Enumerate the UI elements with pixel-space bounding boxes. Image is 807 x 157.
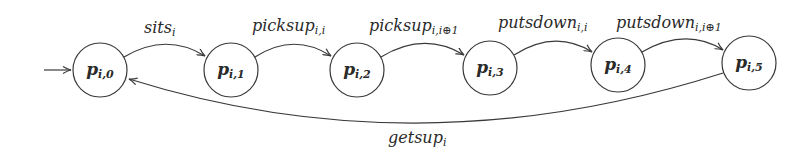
edge-label-picksup-i-i-plus-1: picksupi,i⊕1	[369, 16, 459, 37]
edge-label-putsdown-i-i-plus-1: putsdowni,i⊕1	[616, 13, 722, 34]
edge-p0-p1	[124, 44, 205, 57]
state-node-p-i-0: pi,0	[73, 43, 127, 97]
edge-label-putsdown-i-i: putsdowni,i	[498, 13, 588, 34]
edge-p3-p4	[514, 41, 592, 55]
edge-p1-p2	[255, 44, 331, 57]
edge-p2-p3	[381, 43, 464, 57]
edge-label-sits: sitsi	[144, 18, 176, 39]
state-node-p-i-2: pi,2	[330, 43, 384, 97]
state-node-p-i-4: pi,4	[591, 38, 645, 92]
state-node-p-i-5: pi,5	[722, 36, 776, 90]
edge-label-picksup-i-i: picksupi,i	[252, 16, 325, 37]
edge-label-getsup: getsupi	[388, 128, 446, 149]
state-node-p-i-1: pi,1	[204, 43, 258, 97]
edge-p4-p5	[642, 39, 723, 52]
state-node-p-i-3: pi,3	[463, 41, 517, 95]
state-diagram: sitsi picksupi,i picksupi,i⊕1 putsdowni,…	[0, 0, 807, 157]
